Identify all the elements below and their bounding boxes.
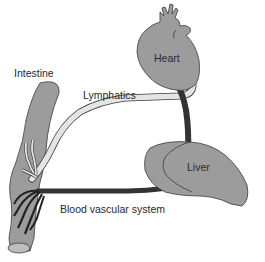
liver-label: Liver bbox=[187, 162, 210, 173]
intestine-label: Intestine bbox=[14, 68, 54, 79]
blood-vascular-system-label: Blood vascular system bbox=[60, 204, 165, 215]
intestine-shape bbox=[8, 82, 59, 253]
heart-shape bbox=[137, 4, 200, 90]
liver-shape bbox=[145, 142, 248, 206]
lymphatics-label: Lymphatics bbox=[83, 90, 136, 101]
heart-label: Heart bbox=[154, 53, 180, 64]
lymphatic-blood-system-diagram bbox=[0, 0, 265, 262]
